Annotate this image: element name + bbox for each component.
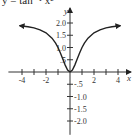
- y-tick-label: 1.5: [56, 31, 66, 40]
- x-tick-label: 2: [92, 76, 96, 85]
- x-axis-label: x: [126, 73, 131, 83]
- y-axis-label: y: [63, 6, 68, 16]
- chart: xy-4-2242.01.51.0.5-.5-1.0-1.5-2.0: [0, 0, 140, 137]
- y-tick-label: 2.0: [56, 19, 66, 28]
- x-tick-label: 4: [116, 76, 120, 85]
- curve-right-branch: [70, 26, 120, 72]
- x-tick-label: -2: [43, 76, 50, 85]
- y-tick-label: -.5: [74, 80, 83, 89]
- x-tick-label: -4: [19, 76, 26, 85]
- y-tick-label: -2.0: [74, 117, 87, 126]
- y-tick-label: -1.0: [74, 93, 87, 102]
- y-tick-label: -1.5: [74, 105, 87, 114]
